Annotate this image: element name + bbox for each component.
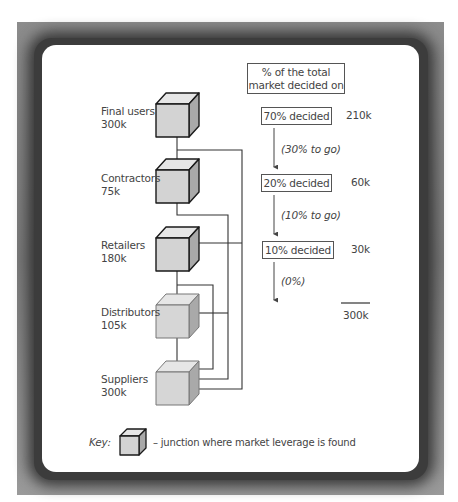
key-description: – junction where market leverage is foun…	[153, 436, 356, 449]
node-label-distributors: Distributors 105k	[101, 306, 160, 332]
node-name: Retailers	[101, 239, 145, 252]
decision-box-70: 70% decided	[261, 107, 332, 125]
decision-amount-210k: 210k	[346, 109, 371, 122]
node-label-contractors: Contractors 75k	[101, 172, 160, 198]
decision-box-20: 20% decided	[261, 174, 332, 192]
header-box: % of the total market decided on	[247, 63, 345, 94]
node-name: Distributors	[101, 306, 160, 319]
node-value: 75k	[101, 185, 160, 198]
key-cube-icon	[120, 429, 146, 455]
header-line-2: market decided on	[248, 79, 344, 92]
node-name: Final users	[101, 105, 155, 118]
key-label: Key:	[89, 436, 111, 449]
node-label-suppliers: Suppliers 300k	[101, 373, 148, 399]
remaining-30: (30% to go)	[281, 143, 341, 156]
header-line-1: % of the total	[248, 66, 344, 79]
node-label-retailers: Retailers 180k	[101, 239, 145, 265]
node-label-final-users: Final users 300k	[101, 105, 155, 131]
diagram-canvas	[0, 0, 458, 502]
decision-amount-30k: 30k	[351, 243, 370, 256]
decision-box-10: 10% decided	[262, 241, 334, 259]
node-name: Contractors	[101, 172, 160, 185]
node-value: 300k	[101, 118, 155, 131]
node-value: 300k	[101, 386, 148, 399]
cube-suppliers	[156, 361, 199, 405]
decision-amount-60k: 60k	[351, 176, 370, 189]
node-name: Suppliers	[101, 373, 148, 386]
cube-distributors	[156, 294, 199, 338]
cube-final-users	[156, 93, 199, 137]
total-amount: 300k	[343, 309, 368, 322]
remaining-0: (0%)	[281, 275, 305, 288]
cube-retailers	[156, 227, 199, 271]
node-value: 105k	[101, 319, 160, 332]
cube-contractors	[156, 159, 199, 203]
remaining-10: (10% to go)	[281, 209, 341, 222]
node-value: 180k	[101, 252, 145, 265]
